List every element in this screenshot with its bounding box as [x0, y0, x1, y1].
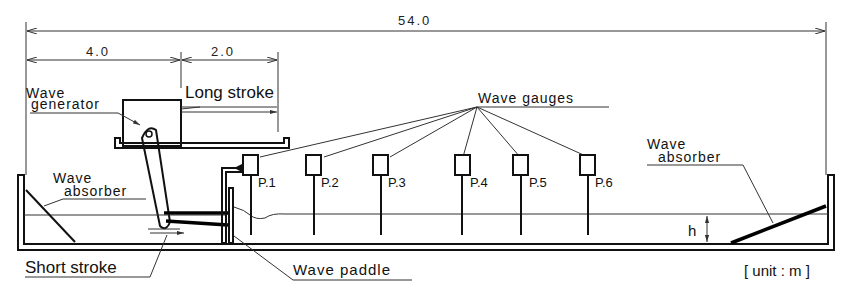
label-text: Wave paddle [293, 261, 391, 278]
gauge-p3: P.3 [373, 155, 406, 235]
gauge-p4: P.4 [455, 155, 488, 235]
gauge-label: P.4 [470, 175, 488, 190]
dimension-total-label: 54.0 [398, 13, 431, 28]
gauge-label: P.3 [388, 175, 406, 190]
dimension-offset-label: 4.0 [86, 44, 110, 59]
wave-flume-diagram: 54.0 4.0 2.0 [0, 0, 848, 297]
gauge-label: P.6 [595, 175, 613, 190]
label-text: [ unit : m ] [744, 262, 810, 279]
gauge-label: P.1 [258, 175, 276, 190]
wave-generator [115, 100, 289, 233]
dimension-generator-offset: 4.0 [27, 44, 181, 88]
wave-paddle [222, 164, 242, 243]
gauge-p5: P.5 [513, 155, 547, 235]
label-short-stroke: Short stroke [25, 235, 167, 277]
gauge-p1: P.1 [243, 155, 276, 235]
label-unit: [ unit : m ] [744, 262, 810, 279]
label-text: absorber [64, 183, 127, 199]
label-wave-paddle: Wave paddle [234, 236, 412, 280]
wave-tank [18, 175, 834, 250]
label-text: Long stroke [185, 83, 274, 102]
label-wave-gauges: Wave gauges [477, 90, 609, 107]
label-water-depth: h [688, 222, 696, 239]
wave-gauges: P.1 P.2 P.3 P.4 P.5 P.6 [243, 107, 613, 235]
dimension-stroke-label: 2.0 [211, 44, 235, 59]
label-text: Short stroke [25, 258, 117, 277]
gauge-p2: P.2 [306, 155, 339, 235]
label-wave-absorber-right: Wave absorber [647, 136, 773, 223]
label-text: generator [31, 96, 100, 112]
label-text: absorber [658, 149, 721, 165]
label-text: h [688, 222, 696, 239]
gauge-label: P.5 [529, 175, 547, 190]
gauge-label: P.2 [321, 175, 339, 190]
label-long-stroke: Long stroke [185, 83, 274, 102]
gauge-p6: P.6 [580, 155, 613, 235]
label-text: Wave gauges [478, 90, 574, 106]
label-wave-absorber-left: Wave absorber [44, 170, 146, 206]
